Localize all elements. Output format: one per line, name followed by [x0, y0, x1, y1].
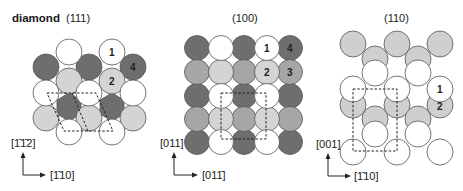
panel-111-label: (111) — [66, 12, 90, 24]
axis-horizontal-label-111: [1̄10] — [50, 169, 74, 181]
panel-100: (100) — [160, 12, 303, 181]
layer-number-2: 2 — [437, 101, 443, 112]
layer-number-4: 4 — [287, 43, 293, 54]
panel-110: (110) 1 2 — [316, 12, 453, 182]
layer-number-1: 1 — [264, 43, 270, 54]
axis-vertical-label-110: [001] — [316, 138, 340, 150]
panel-110-label: (110) — [384, 12, 409, 24]
axis-horizontal-label-100: [011̄] — [202, 169, 226, 181]
arrowhead-right-icon — [345, 174, 351, 179]
grid-100-dark-white — [185, 36, 303, 155]
diamond-surface-figure: diamond (111) — [0, 0, 463, 191]
axis-horizontal-label-110: [1̄10] — [354, 170, 378, 182]
layer-number-1: 1 — [109, 47, 115, 58]
panel-100-label: (100) — [232, 12, 258, 24]
arrowhead-right-icon — [40, 173, 46, 178]
layer-number-4: 4 — [130, 62, 136, 73]
panel-111: (111) — [11, 12, 146, 181]
axis-vertical-label-100: [011] — [160, 137, 184, 149]
layer-number-1: 1 — [437, 84, 443, 95]
arrowhead-up-icon — [21, 152, 26, 158]
arrowhead-up-icon — [172, 152, 177, 158]
arrowhead-right-icon — [192, 173, 198, 178]
arrowhead-up-icon — [326, 153, 331, 159]
layer-number-2: 2 — [264, 67, 270, 78]
figure-title: diamond — [12, 12, 60, 24]
layer-number-3: 3 — [287, 67, 293, 78]
layer-number-2: 2 — [109, 76, 115, 87]
axis-vertical-label-111: [1̄1̄2] — [11, 137, 35, 149]
